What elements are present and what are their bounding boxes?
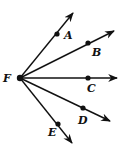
point-c bbox=[85, 75, 90, 80]
ray-fe bbox=[20, 78, 72, 143]
point-label-d: D bbox=[77, 114, 88, 127]
point-b bbox=[85, 40, 90, 45]
point-label-c: C bbox=[87, 82, 96, 95]
point-label-b: B bbox=[91, 46, 101, 59]
point-label-a: A bbox=[63, 29, 73, 42]
vertex-point-f bbox=[17, 75, 23, 81]
vertex-label: F bbox=[2, 72, 12, 85]
ray-fa bbox=[20, 13, 73, 78]
point-label-e: E bbox=[47, 126, 57, 139]
ray-fd bbox=[20, 78, 110, 121]
point-a bbox=[54, 31, 59, 36]
point-d bbox=[80, 105, 85, 110]
rays-diagram: ABCDE F bbox=[0, 0, 125, 149]
